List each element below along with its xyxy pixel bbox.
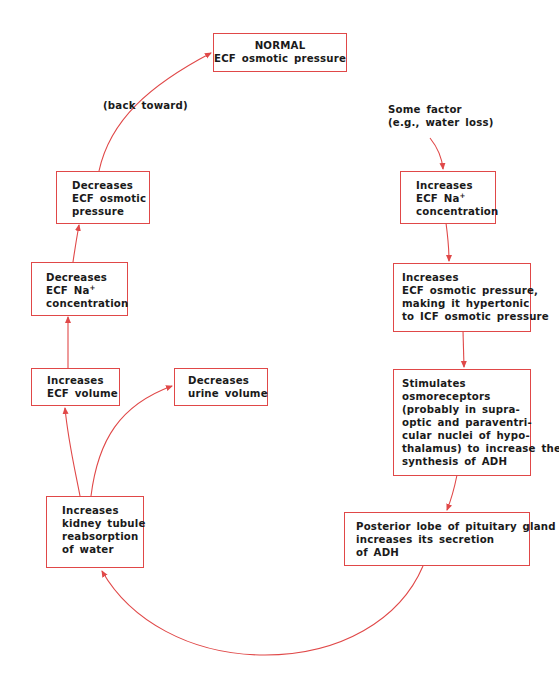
arrow-dec-osm-to-normal (99, 53, 211, 171)
node-text: kidney tubule (62, 517, 143, 530)
node-text: Decreases (188, 374, 267, 387)
node-text: osmoreceptors (402, 390, 530, 403)
arrow-dec-na-to-dec-osm (73, 225, 79, 262)
node-stimulates-osmoreceptors: Stimulates osmoreceptors (probably in su… (393, 369, 531, 476)
node-text: making it hypertonic (402, 297, 530, 310)
node-text: ECF volume (47, 387, 119, 400)
node-text: ECF osmotic pressure (214, 52, 346, 65)
node-text: ECF osmotic pressure, (402, 284, 530, 297)
node-text: Increases (416, 179, 495, 192)
node-text: NORMAL (214, 39, 346, 52)
node-decreases-ecf-na-concentration: Decreases ECF Na+ concentration (31, 262, 128, 316)
node-text: increases its secretion (356, 533, 529, 546)
node-text: ECF osmotic (72, 192, 149, 205)
arrow-inc-osm-to-osmoreceptors (463, 331, 464, 367)
arrow-inc-na-to-inc-osm (446, 223, 449, 261)
node-text: (e.g., water loss) (388, 116, 494, 129)
node-text: (probably in supra- (402, 403, 530, 416)
node-text: concentration (46, 297, 127, 310)
node-text: Some factor (388, 103, 494, 116)
node-increases-ecf-osmotic-pressure: Increases ECF osmotic pressure, making i… (393, 263, 531, 332)
node-increases-ecf-na-concentration: Increases ECF Na+ concentration (400, 171, 496, 224)
node-text: Increases (402, 271, 530, 284)
node-decreases-urine-volume: Decreases urine volume (174, 368, 268, 406)
node-normal-ecf-osmotic-pressure: NORMAL ECF osmotic pressure (213, 33, 347, 72)
node-text: ECF Na+ (46, 284, 127, 297)
node-text: pressure (72, 205, 149, 218)
node-text: cular nuclei of hypo- (402, 429, 530, 442)
arrow-pituitary-to-kidney (102, 566, 423, 655)
node-text: reabsorption (62, 530, 143, 543)
node-text: ECF Na+ (416, 192, 495, 205)
node-text: Posterior lobe of pituitary gland (356, 520, 529, 533)
node-posterior-pituitary-secretion: Posterior lobe of pituitary gland increa… (344, 512, 530, 566)
node-decreases-ecf-osmotic-pressure: Decreases ECF osmotic pressure (56, 171, 150, 224)
node-text: synthesis of ADH (402, 455, 530, 468)
node-text: optic and paraventri- (402, 416, 530, 429)
node-text: thalamus) to increase their (402, 442, 530, 455)
node-text: Decreases (46, 271, 127, 284)
arrow-factor-to-inc-na (430, 138, 443, 169)
node-text: to ICF osmotic pressure (402, 310, 530, 323)
node-text: Decreases (72, 179, 149, 192)
arrow-kidney-to-inc-vol (65, 408, 80, 496)
node-increases-kidney-tubule-reabsorption: Increases kidney tubule reabsorption of … (46, 496, 144, 568)
back-toward-label: (back toward) (103, 99, 188, 112)
node-text: concentration (416, 205, 495, 218)
node-text: Stimulates (402, 377, 530, 390)
node-text: Increases (47, 374, 119, 387)
node-text: Increases (62, 504, 143, 517)
node-text: urine volume (188, 387, 267, 400)
node-text: of ADH (356, 546, 529, 559)
ecf-osmotic-pressure-feedback-diagram: NORMAL ECF osmotic pressure (back toward… (0, 0, 559, 681)
node-text: of water (62, 543, 143, 556)
some-factor-label: Some factor (e.g., water loss) (388, 103, 494, 129)
node-increases-ecf-volume: Increases ECF volume (31, 368, 120, 406)
arrow-osmoreceptors-to-pituitary (447, 475, 457, 510)
